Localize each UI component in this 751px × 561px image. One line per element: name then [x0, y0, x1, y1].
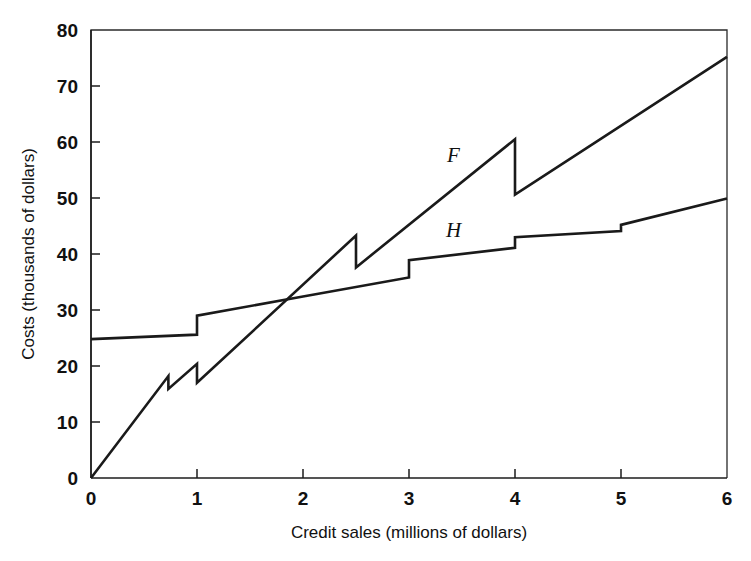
- y-tick-label: 50: [57, 188, 78, 209]
- x-tick-label: 0: [86, 488, 97, 509]
- y-axis-tick-labels: 01020304050607080: [57, 20, 78, 489]
- y-tick-label: 0: [67, 468, 78, 489]
- y-tick-label: 40: [57, 244, 78, 265]
- x-axis-tick-labels: 0123456: [86, 488, 733, 509]
- axis-ticks: [91, 86, 621, 478]
- series-line-h: [91, 199, 727, 340]
- y-tick-label: 60: [57, 132, 78, 153]
- x-tick-label: 2: [298, 488, 309, 509]
- series-label-f: F: [446, 143, 460, 167]
- y-tick-label: 30: [57, 300, 78, 321]
- x-tick-label: 3: [404, 488, 415, 509]
- y-axis-title: Costs (thousands of dollars): [19, 148, 38, 360]
- plot-frame: [91, 30, 727, 478]
- x-tick-label: 1: [192, 488, 203, 509]
- x-axis-title: Credit sales (millions of dollars): [291, 523, 527, 542]
- y-tick-label: 80: [57, 20, 78, 41]
- x-tick-label: 6: [722, 488, 733, 509]
- x-tick-label: 5: [616, 488, 627, 509]
- series-label-h: H: [445, 218, 463, 242]
- chart-figure: 01020304050607080 0123456 FH Credit sale…: [0, 0, 751, 561]
- y-tick-label: 10: [57, 412, 78, 433]
- y-tick-label: 20: [57, 356, 78, 377]
- x-tick-label: 4: [510, 488, 521, 509]
- y-tick-label: 70: [57, 76, 78, 97]
- chart-canvas: 01020304050607080 0123456 FH Credit sale…: [0, 0, 751, 561]
- data-series-lines: [91, 57, 727, 478]
